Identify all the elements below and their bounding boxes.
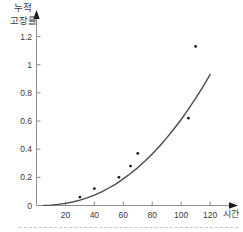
x-tick-label: 120 — [203, 210, 217, 220]
y-axis-title-line1: 누적 — [4, 1, 42, 14]
y-axis-title-line2: 고장률 — [4, 14, 42, 27]
fitted-curve — [44, 75, 210, 206]
x-tick-label: 80 — [148, 210, 158, 220]
plot-svg: 2040608010012000.20.40.60.811.2 — [0, 0, 243, 232]
data-point — [136, 152, 139, 155]
x-tick-label: 60 — [119, 210, 129, 220]
x-tick-label: 100 — [174, 210, 188, 220]
y-tick-label: 1.2 — [20, 32, 32, 42]
y-tick-label: 0.6 — [20, 116, 32, 126]
y-tick-label: 0.2 — [20, 172, 32, 182]
data-point — [118, 176, 121, 179]
y-tick-label: 1 — [27, 60, 32, 70]
data-point — [79, 196, 82, 199]
chart: 2040608010012000.20.40.60.811.2 누적 고장률 시… — [0, 0, 243, 232]
y-tick-label: 0.4 — [20, 144, 32, 154]
x-tick-label: 20 — [61, 210, 71, 220]
x-axis-title: 시간 — [220, 207, 242, 220]
y-tick-label: 0.8 — [20, 88, 32, 98]
x-tick-label: 40 — [90, 210, 100, 220]
y-axis-title: 누적 고장률 — [4, 1, 42, 27]
data-point — [194, 45, 197, 48]
data-point — [93, 187, 96, 190]
y-tick-label: 0 — [27, 201, 32, 211]
data-point — [129, 165, 132, 168]
data-point — [187, 117, 190, 120]
bottom-divider — [19, 227, 238, 228]
